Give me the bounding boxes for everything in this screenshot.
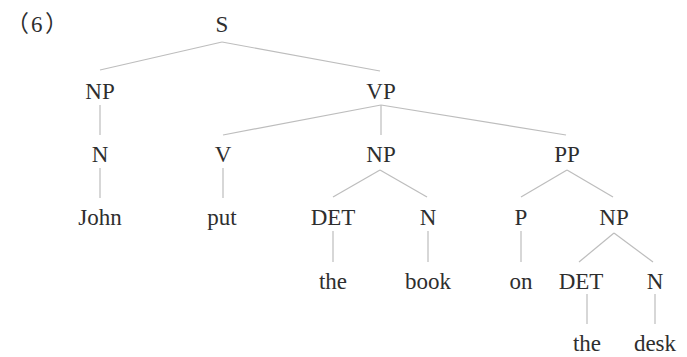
tree-node-p: P [515, 206, 528, 230]
edge-vp-pp [381, 105, 566, 135]
tree-node-n3: N [647, 270, 664, 294]
tree-node-the1: the [319, 270, 347, 294]
tree-node-s: S [216, 13, 229, 37]
tree-node-john: John [78, 206, 121, 230]
tree-node-v: V [215, 143, 232, 167]
tree-node-np1: NP [85, 80, 114, 104]
tree-node-pp: PP [554, 143, 580, 167]
edge-pp-np3 [567, 170, 613, 197]
edge-np3-n3 [614, 233, 653, 262]
tree-node-det1: DET [311, 206, 356, 230]
tree-node-np3: NP [599, 206, 628, 230]
tree-node-on: on [510, 270, 533, 294]
tree-node-the2: the [573, 332, 601, 356]
tree-node-det2: DET [559, 270, 604, 294]
edge-s-vp [222, 42, 380, 71]
edge-s-np1 [100, 42, 222, 70]
tree-node-book: book [405, 270, 451, 294]
edge-np2-n2 [380, 170, 427, 197]
tree-node-put: put [207, 206, 236, 230]
tree-edges [0, 0, 687, 357]
tree-node-n1: N [92, 143, 109, 167]
edge-pp-p [521, 170, 567, 197]
edge-np2-det1 [333, 170, 380, 197]
tree-node-vp: VP [366, 80, 395, 104]
tree-node-np2: NP [366, 143, 395, 167]
edge-vp-v [223, 105, 381, 135]
tree-node-n2: N [420, 206, 437, 230]
edge-np3-det2 [579, 233, 614, 262]
tree-node-desk: desk [634, 332, 676, 356]
